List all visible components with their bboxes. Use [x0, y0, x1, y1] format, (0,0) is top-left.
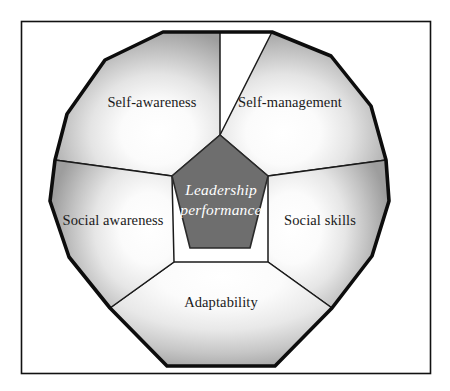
- leadership-performance-diagram: Self-awareness Self-management Social sk…: [0, 0, 450, 391]
- segment-label-social-skills: Social skills: [284, 212, 356, 228]
- segment-label-self-awareness: Self-awareness: [107, 94, 196, 110]
- figure-root: Self-awareness Self-management Social sk…: [0, 0, 450, 391]
- segment-label-self-management: Self-management: [238, 94, 342, 110]
- segment-label-adaptability: Adaptability: [184, 294, 258, 310]
- segment-label-social-awareness: Social awareness: [62, 212, 163, 228]
- core-label-line2: performance: [179, 201, 261, 218]
- core-label-line1: Leadership: [184, 181, 257, 198]
